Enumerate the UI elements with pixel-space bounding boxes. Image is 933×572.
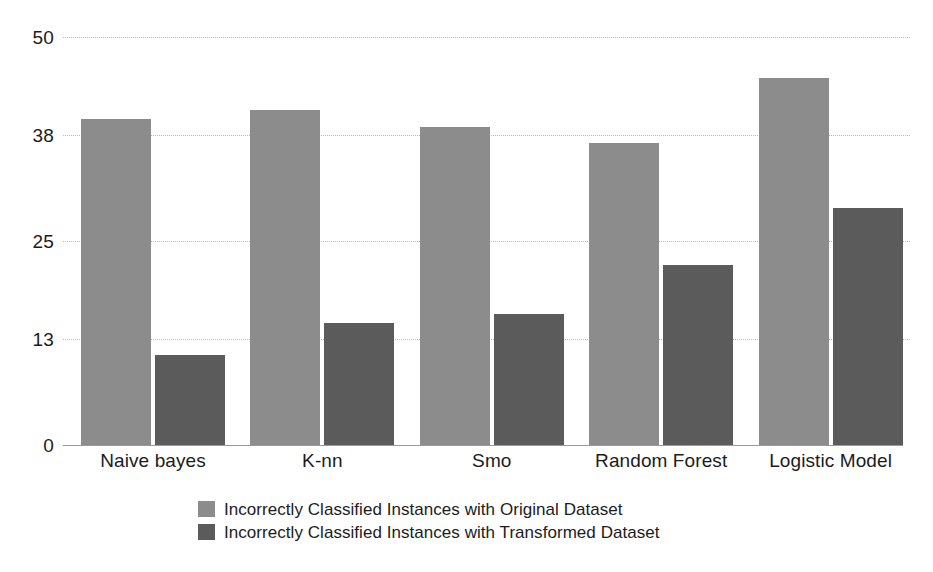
- y-tick-label: 13: [8, 330, 54, 349]
- x-tick-label: Naive bayes: [61, 450, 245, 472]
- x-axis: Naive bayesK-nnSmoRandom ForestLogistic …: [63, 450, 910, 480]
- chart-legend: Incorrectly Classified Instances with Or…: [198, 499, 660, 542]
- x-axis-baseline: [63, 445, 903, 446]
- y-tick-label: 50: [8, 28, 54, 47]
- bar-transformed: [833, 208, 903, 445]
- legend-item-label: Incorrectly Classified Instances with Or…: [224, 500, 623, 519]
- gridline: [63, 37, 910, 38]
- bar-transformed: [494, 314, 564, 445]
- x-tick-label: Smo: [400, 450, 584, 472]
- bar-chart: 503825130 Naive bayesK-nnSmoRandom Fores…: [0, 0, 933, 572]
- legend-item: Incorrectly Classified Instances with Tr…: [198, 522, 660, 542]
- bar-transformed: [155, 355, 225, 445]
- bar-original: [589, 143, 659, 445]
- legend-item-label: Incorrectly Classified Instances with Tr…: [224, 523, 660, 542]
- legend-swatch-original-icon: [198, 501, 215, 517]
- y-tick-label: 25: [8, 232, 54, 251]
- y-tick-label: 0: [8, 436, 54, 455]
- bar-original: [759, 78, 829, 445]
- bar-transformed: [324, 323, 394, 445]
- bar-original: [420, 127, 490, 445]
- bar-original: [81, 119, 151, 445]
- legend-swatch-transformed-icon: [198, 524, 215, 540]
- bar-original: [250, 110, 320, 445]
- legend-item: Incorrectly Classified Instances with Or…: [198, 499, 660, 519]
- y-axis: 503825130: [0, 37, 54, 445]
- x-tick-label: K-nn: [230, 450, 414, 472]
- x-tick-label: Logistic Model: [739, 450, 923, 472]
- plot-area: [63, 37, 910, 445]
- x-tick-label: Random Forest: [569, 450, 753, 472]
- bar-transformed: [663, 265, 733, 445]
- y-tick-label: 38: [8, 126, 54, 145]
